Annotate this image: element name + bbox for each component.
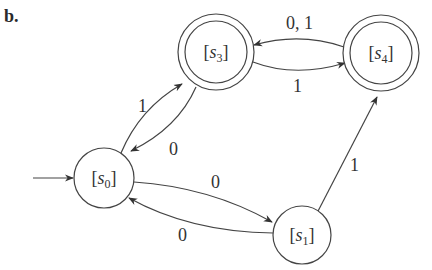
edge-label-s3-s0: 0	[169, 139, 178, 159]
state-diagram: 1 0 0 0 1 1 0, 1 [s3] [s4] [s0] [s1]	[0, 0, 432, 270]
state-s4-label: [s4]	[368, 43, 393, 66]
state-s4: [s4]	[343, 15, 419, 91]
edge-label-s1-s4: 1	[350, 155, 359, 175]
state-s1-label: [s1]	[289, 225, 314, 248]
state-s1: [s1]	[273, 206, 331, 264]
state-s0: [s0]	[74, 148, 134, 208]
edge-label-s4-s3: 0, 1	[286, 13, 313, 33]
edge-s1-s0	[129, 198, 273, 233]
edge-label-s3-s4: 1	[293, 76, 302, 96]
state-s3: [s3]	[178, 14, 254, 90]
edge-s1-s4	[316, 97, 377, 215]
state-s3-label: [s3]	[203, 42, 228, 65]
edge-label-s0-s1: 0	[211, 172, 220, 192]
state-s0-label: [s0]	[91, 168, 116, 191]
edge-s0-s1	[134, 182, 272, 222]
edge-s3-s4	[253, 62, 345, 70]
edge-label-s1-s0: 0	[178, 225, 187, 245]
edge-label-s0-s3: 1	[138, 96, 147, 116]
edge-s4-s3	[254, 39, 344, 47]
